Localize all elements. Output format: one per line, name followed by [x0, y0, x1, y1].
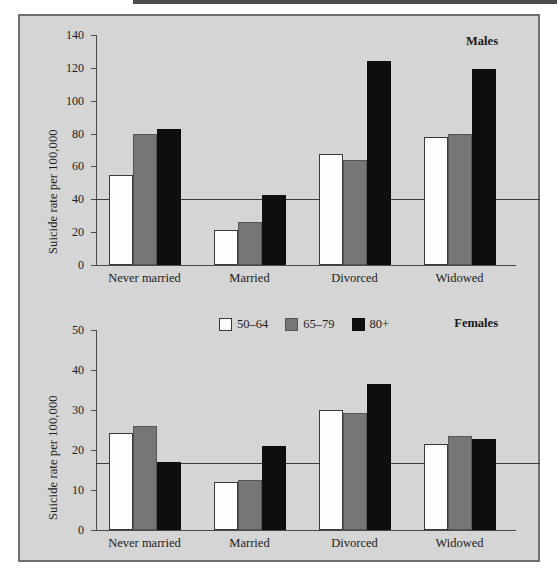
bar	[214, 482, 238, 530]
y-axis-tick	[91, 232, 96, 233]
bar	[319, 410, 343, 530]
y-axis-tick	[91, 265, 96, 266]
bar	[343, 160, 367, 265]
x-axis-category-label: Never married	[108, 271, 181, 286]
legend-swatch-icon	[219, 318, 232, 331]
plot-area-females: 01020304050Never marriedMarriedDivorcedW…	[96, 330, 516, 530]
y-axis-tick-label: 80	[50, 128, 84, 140]
y-axis-tick-label: 20	[50, 444, 84, 456]
bar	[214, 230, 238, 265]
legend-label: 80+	[370, 317, 390, 332]
figure-frame: Males Suicide rate per 100,000 Females S…	[18, 14, 540, 562]
bar	[448, 134, 472, 265]
y-axis-tick-label: 40	[50, 364, 84, 376]
bar	[109, 433, 133, 530]
legend-swatch-icon	[285, 318, 298, 331]
figure-page: Males Suicide rate per 100,000 Females S…	[0, 0, 557, 576]
bar	[262, 446, 286, 530]
bar	[319, 154, 343, 265]
chart-legend: 50–6465–7980+	[219, 316, 400, 332]
x-axis-category-label: Divorced	[331, 271, 378, 286]
bar	[133, 426, 157, 530]
y-axis-tick-label: 120	[50, 62, 84, 74]
bar	[472, 69, 496, 265]
y-axis-tick	[91, 410, 96, 411]
y-axis-tick-label: 20	[50, 226, 84, 238]
bar	[367, 61, 391, 265]
bar	[367, 384, 391, 530]
bar	[262, 195, 286, 265]
panel-title-females: Females	[454, 316, 498, 331]
bar	[238, 222, 262, 265]
y-axis-tick	[91, 101, 96, 102]
x-axis-category-label: Divorced	[331, 536, 378, 551]
bar	[448, 436, 472, 530]
legend-label: 50–64	[237, 317, 268, 332]
x-axis-line	[96, 530, 516, 531]
bar	[238, 480, 262, 530]
bar	[343, 413, 367, 530]
bar	[133, 134, 157, 265]
bar	[424, 137, 448, 265]
legend-label: 65–79	[303, 317, 334, 332]
y-axis-tick-label: 0	[50, 259, 84, 271]
y-axis-line	[96, 35, 97, 265]
y-axis-tick-label: 100	[50, 95, 84, 107]
y-axis-tick	[91, 166, 96, 167]
legend-item: 65–79	[285, 317, 334, 332]
bar	[472, 439, 496, 530]
y-axis-tick	[91, 490, 96, 491]
bar	[157, 129, 181, 265]
y-axis-tick-label: 30	[50, 404, 84, 416]
x-axis-category-label: Widowed	[435, 536, 483, 551]
y-axis-tick	[91, 330, 96, 331]
bar	[157, 462, 181, 530]
x-axis-category-label: Never married	[108, 536, 181, 551]
y-axis-tick-label: 0	[50, 524, 84, 536]
x-axis-category-label: Married	[229, 271, 269, 286]
legend-item: 50–64	[219, 317, 268, 332]
bar	[424, 444, 448, 530]
page-top-bleed	[133, 0, 557, 4]
y-axis-tick-label: 140	[50, 29, 84, 41]
y-axis-line	[96, 330, 97, 530]
legend-item: 80+	[352, 317, 390, 332]
y-axis-tick	[91, 35, 96, 36]
x-axis-category-label: Widowed	[435, 271, 483, 286]
x-axis-line	[96, 265, 516, 266]
bar	[109, 175, 133, 265]
y-axis-tick	[91, 450, 96, 451]
y-axis-tick-label: 10	[50, 484, 84, 496]
y-axis-tick	[91, 134, 96, 135]
y-axis-tick-label: 50	[50, 324, 84, 336]
y-axis-tick-label: 40	[50, 193, 84, 205]
y-axis-tick	[91, 68, 96, 69]
y-axis-tick	[91, 530, 96, 531]
legend-swatch-icon	[352, 318, 365, 331]
y-axis-tick-label: 60	[50, 160, 84, 172]
x-axis-category-label: Married	[229, 536, 269, 551]
plot-area-males: 020406080100120140Never marriedMarriedDi…	[96, 35, 516, 265]
y-axis-tick	[91, 370, 96, 371]
